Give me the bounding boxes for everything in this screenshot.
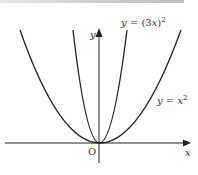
parabola-diagram: y = (3x)2 y = x2 y x O [0,0,198,175]
y-axis-label: y [89,29,96,40]
origin-label: O [88,146,96,157]
x-axis-label: x [185,147,191,158]
wide-parabola [20,30,181,143]
y-axis-arrow-icon [96,28,103,37]
wide-parabola-label: y = x2 [156,94,188,106]
narrow-parabola-label: y = (3x)2 [120,16,166,28]
narrow-parabola [73,30,127,143]
x-axis-arrow-icon [183,140,191,147]
